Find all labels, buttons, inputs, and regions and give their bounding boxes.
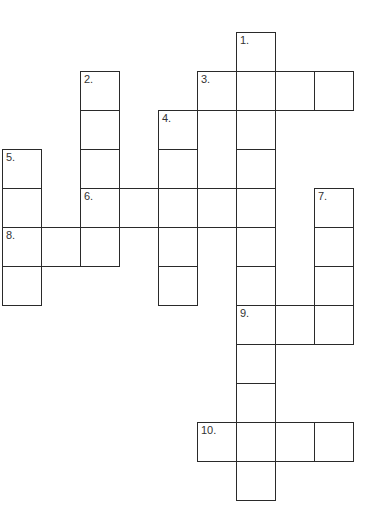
crossword-cell[interactable]: 2.: [80, 71, 120, 111]
crossword-cell[interactable]: 3.: [197, 71, 237, 111]
crossword-cell[interactable]: [236, 188, 276, 228]
crossword-cell[interactable]: [314, 266, 354, 306]
crossword-cell[interactable]: [158, 149, 198, 189]
clue-number: 2.: [84, 74, 93, 85]
clue-number: 7.: [318, 191, 327, 202]
crossword-cell[interactable]: [275, 305, 315, 345]
clue-number: 6.: [84, 191, 93, 202]
crossword-cell[interactable]: 6.: [80, 188, 120, 228]
crossword-cell[interactable]: 4.: [158, 110, 198, 150]
crossword-cell[interactable]: [236, 383, 276, 423]
crossword-cell[interactable]: [236, 110, 276, 150]
crossword-cell[interactable]: [236, 422, 276, 462]
clue-number: 8.: [6, 230, 15, 241]
crossword-cell[interactable]: [236, 461, 276, 501]
crossword-cell[interactable]: [314, 422, 354, 462]
crossword-cell[interactable]: 8.: [2, 227, 42, 267]
crossword-cell[interactable]: 9.: [236, 305, 276, 345]
crossword-cell[interactable]: 7.: [314, 188, 354, 228]
crossword-grid: 1.9.2.6.3.4.5.8.7.10.: [0, 0, 376, 517]
crossword-cell[interactable]: [314, 71, 354, 111]
crossword-cell[interactable]: [236, 266, 276, 306]
crossword-cell[interactable]: [80, 110, 120, 150]
clue-number: 9.: [240, 308, 249, 319]
crossword-cell[interactable]: [2, 266, 42, 306]
crossword-cell[interactable]: [158, 227, 198, 267]
clue-number: 10.: [201, 425, 216, 436]
crossword-cell[interactable]: [275, 422, 315, 462]
crossword-cell[interactable]: 1.: [236, 32, 276, 72]
crossword-cell[interactable]: [314, 227, 354, 267]
clue-number: 4.: [162, 113, 171, 124]
crossword-cell[interactable]: [119, 188, 159, 228]
crossword-cell[interactable]: [158, 266, 198, 306]
crossword-cell[interactable]: 5.: [2, 149, 42, 189]
crossword-cell[interactable]: [2, 188, 42, 228]
crossword-cell[interactable]: [236, 227, 276, 267]
crossword-cell[interactable]: [41, 227, 81, 267]
crossword-cell[interactable]: [314, 305, 354, 345]
clue-number: 5.: [6, 152, 15, 163]
crossword-cell[interactable]: [236, 149, 276, 189]
crossword-cell[interactable]: 10.: [197, 422, 237, 462]
crossword-cell[interactable]: [275, 71, 315, 111]
crossword-cell[interactable]: [158, 188, 198, 228]
crossword-cell[interactable]: [80, 227, 120, 267]
crossword-cell[interactable]: [197, 188, 237, 228]
clue-number: 3.: [201, 74, 210, 85]
crossword-cell[interactable]: [80, 149, 120, 189]
crossword-cell[interactable]: [236, 71, 276, 111]
clue-number: 1.: [240, 35, 249, 46]
crossword-cell[interactable]: [236, 344, 276, 384]
